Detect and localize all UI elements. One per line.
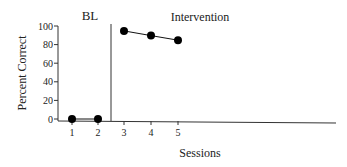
y-tick-label-0: 0 xyxy=(48,114,53,125)
phase-label-baseline: BL xyxy=(82,8,99,23)
y-tick-label-20: 20 xyxy=(43,95,53,106)
data-point xyxy=(68,115,76,123)
data-point xyxy=(120,27,128,35)
y-tick-label-40: 40 xyxy=(43,76,53,87)
x-tick-label-4: 4 xyxy=(149,127,154,138)
series-baseline xyxy=(68,115,102,123)
y-tick-labels: 100 80 60 40 20 0 xyxy=(38,21,53,125)
x-tick-label-2: 2 xyxy=(96,127,101,138)
y-ticks xyxy=(54,26,58,119)
x-tick-labels: 1 2 3 4 5 xyxy=(70,127,181,138)
x-tick-label-1: 1 xyxy=(70,127,75,138)
y-tick-label-60: 60 xyxy=(43,58,53,69)
data-point xyxy=(94,115,102,123)
phase-label-intervention: Intervention xyxy=(171,10,230,24)
data-point xyxy=(147,32,155,40)
y-tick-label-80: 80 xyxy=(43,39,53,50)
x-tick-label-3: 3 xyxy=(122,127,127,138)
x-axis-title: Sessions xyxy=(179,146,221,160)
series-intervention xyxy=(120,27,182,44)
y-axis-title: Percent Correct xyxy=(15,35,29,111)
x-tick-label-5: 5 xyxy=(176,127,181,138)
y-tick-label-100: 100 xyxy=(38,21,53,32)
data-point xyxy=(174,36,182,44)
single-case-line-chart: 100 80 60 40 20 0 1 2 3 4 5 BL Intervent… xyxy=(0,0,347,167)
